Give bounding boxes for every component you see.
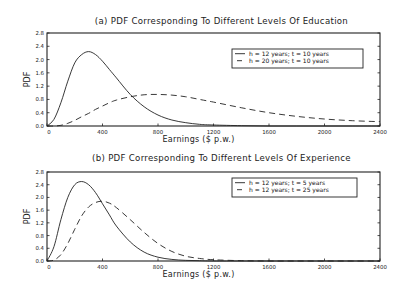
x-tick-label: 2000 bbox=[318, 264, 332, 270]
x-tick-label: 0 bbox=[47, 129, 51, 135]
y-tick-label: 2.8 bbox=[35, 169, 44, 175]
x-tick-label: 400 bbox=[97, 264, 108, 270]
x-tick-label: 2400 bbox=[373, 129, 387, 135]
legend-entry: h = 20 years; t = 10 years bbox=[249, 57, 329, 65]
y-tick-label: 2.0 bbox=[35, 194, 44, 200]
y-tick-label: 0.4 bbox=[35, 245, 44, 251]
y-tick-label: 1.6 bbox=[35, 70, 44, 76]
x-tick-label: 1600 bbox=[262, 129, 276, 135]
series-line-2 bbox=[47, 201, 380, 261]
legend-entry: h = 12 years; t = 25 years bbox=[249, 186, 329, 194]
y-tick-label: 0.8 bbox=[35, 96, 44, 102]
chart-title: (a) PDF Corresponding To Different Level… bbox=[95, 16, 348, 26]
y-axis-label: PDF bbox=[23, 208, 32, 224]
x-tick-label: 2400 bbox=[373, 264, 387, 270]
y-tick-label: 0.8 bbox=[35, 233, 44, 239]
x-tick-label: 400 bbox=[97, 129, 108, 135]
y-tick-label: 1.2 bbox=[35, 83, 44, 89]
y-tick-label: 0.0 bbox=[35, 258, 44, 264]
y-tick-label: 1.6 bbox=[35, 207, 44, 213]
y-tick-label: 0.4 bbox=[35, 110, 44, 116]
plot-frame bbox=[47, 33, 380, 126]
y-axis-label: PDF bbox=[23, 71, 32, 87]
y-tick-label: 2.4 bbox=[35, 182, 44, 188]
x-tick-label: 1600 bbox=[262, 264, 276, 270]
x-tick-label: 0 bbox=[47, 264, 51, 270]
y-tick-label: 0.0 bbox=[35, 123, 44, 129]
chart-panel-a: (a) PDF Corresponding To Different Level… bbox=[23, 16, 387, 144]
y-tick-label: 2.8 bbox=[35, 30, 44, 36]
x-tick-label: 2000 bbox=[318, 129, 332, 135]
chart-panel-b: (b) PDF Corresponding To Different Level… bbox=[23, 153, 387, 279]
x-axis-label: Earnings ($ p.w.) bbox=[162, 270, 234, 279]
x-axis-label: Earnings ($ p.w.) bbox=[162, 135, 234, 144]
legend: h = 12 years; t = 5 yearsh = 12 years; t… bbox=[232, 178, 357, 197]
y-tick-label: 1.2 bbox=[35, 220, 44, 226]
chart-title: (b) PDF Corresponding To Different Level… bbox=[92, 153, 351, 163]
figure: (a) PDF Corresponding To Different Level… bbox=[0, 0, 409, 293]
legend: h = 12 years; t = 10 yearsh = 20 years; … bbox=[232, 49, 363, 68]
series-line-2 bbox=[47, 94, 380, 126]
y-tick-label: 2.4 bbox=[35, 43, 44, 49]
y-tick-label: 2.0 bbox=[35, 57, 44, 63]
